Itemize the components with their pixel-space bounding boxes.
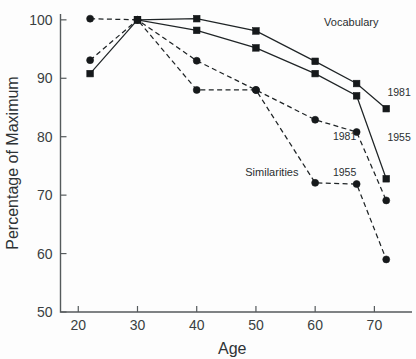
marker-circle xyxy=(252,86,259,93)
marker-square xyxy=(253,45,260,52)
line-chart: 5060708090100203040506070 VocabularySimi… xyxy=(0,0,416,359)
marker-square xyxy=(193,15,200,22)
annotation-vocabulary-group-label: Vocabulary xyxy=(324,16,379,28)
marker-circle xyxy=(87,57,94,64)
y-tick-label: 100 xyxy=(29,12,53,28)
y-tick-label: 70 xyxy=(37,187,53,203)
marker-circle xyxy=(312,179,319,186)
x-tick-label: 50 xyxy=(248,317,264,333)
axis-ticks xyxy=(61,20,375,312)
marker-square xyxy=(193,27,200,34)
x-tick-label: 40 xyxy=(189,317,205,333)
series-line-vocabulary-1955 xyxy=(90,20,386,179)
axis-tick-labels: 5060708090100203040506070 xyxy=(29,12,382,333)
marker-square xyxy=(383,105,390,112)
marker-circle xyxy=(383,197,390,204)
y-axis-title: Percentage of Maximum xyxy=(4,76,21,249)
marker-circle xyxy=(383,256,390,263)
marker-circle xyxy=(193,86,200,93)
marker-square xyxy=(353,93,360,100)
axes xyxy=(61,14,413,312)
chart-annotations: VocabularySimilarities1981195519811955 xyxy=(245,16,411,179)
axis-spines xyxy=(61,14,413,312)
chart-page: 5060708090100203040506070 VocabularySimi… xyxy=(0,0,416,359)
y-tick-label: 50 xyxy=(37,304,53,320)
annotation-sim-1981-label: 1981 xyxy=(333,130,357,142)
marker-circle xyxy=(353,181,360,188)
marker-square xyxy=(383,175,390,182)
marker-circle xyxy=(87,15,94,22)
marker-square xyxy=(353,80,360,87)
annotation-vocab-1955-label: 1955 xyxy=(387,131,411,143)
annotation-vocab-1981-label: 1981 xyxy=(387,86,411,98)
x-tick-label: 30 xyxy=(130,317,146,333)
x-tick-label: 60 xyxy=(307,317,323,333)
x-tick-label: 70 xyxy=(367,317,383,333)
marker-circle xyxy=(312,116,319,123)
annotation-similarities-group-label: Similarities xyxy=(245,166,299,178)
y-tick-label: 80 xyxy=(37,129,53,145)
annotation-sim-1955-label: 1955 xyxy=(333,166,357,178)
y-tick-label: 90 xyxy=(37,70,53,86)
marker-square xyxy=(87,70,94,77)
marker-square xyxy=(312,58,319,65)
marker-circle xyxy=(193,57,200,64)
x-tick-label: 20 xyxy=(70,317,86,333)
y-tick-label: 60 xyxy=(37,246,53,262)
marker-square xyxy=(312,70,319,77)
marker-circle xyxy=(134,16,141,23)
x-axis-title: Age xyxy=(218,340,247,357)
marker-square xyxy=(253,28,260,35)
